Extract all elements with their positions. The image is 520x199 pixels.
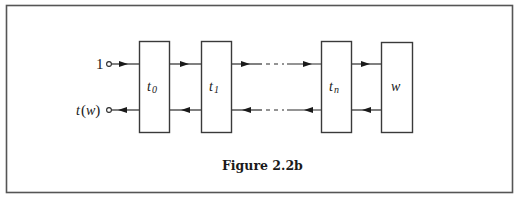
box-t0-subscript: 0 <box>152 84 157 95</box>
box-t1: t1 <box>202 42 232 133</box>
box-tn: tn <box>322 42 352 133</box>
output-port <box>107 108 112 113</box>
box-tn-subscript: n <box>334 84 339 95</box>
arrow-right-icon <box>303 61 312 67</box>
figure-diagram: 1 t(w) t0 t1 tn w Figure 2.2b <box>0 0 520 199</box>
arrow-right-icon <box>361 61 370 67</box>
arrow-right-icon <box>241 61 250 67</box>
box-w-symbol: w <box>391 79 401 94</box>
box-t0: t0 <box>140 42 170 133</box>
input-label: 1 <box>96 56 104 72</box>
box-w: w <box>382 43 413 133</box>
output-label: t(w) <box>76 102 100 119</box>
arrow-left-icon <box>118 107 127 113</box>
input-port <box>107 62 112 67</box>
arrow-left-icon <box>181 107 190 113</box>
arrow-right-icon <box>119 61 128 67</box>
figure-caption: Figure 2.2b <box>222 158 303 173</box>
box-t1-subscript: 1 <box>214 84 219 95</box>
arrow-left-icon <box>304 107 313 113</box>
arrow-left-icon <box>242 107 251 113</box>
svg-text:w: w <box>391 79 401 94</box>
arrow-right-icon <box>180 61 189 67</box>
arrow-left-icon <box>362 107 371 113</box>
